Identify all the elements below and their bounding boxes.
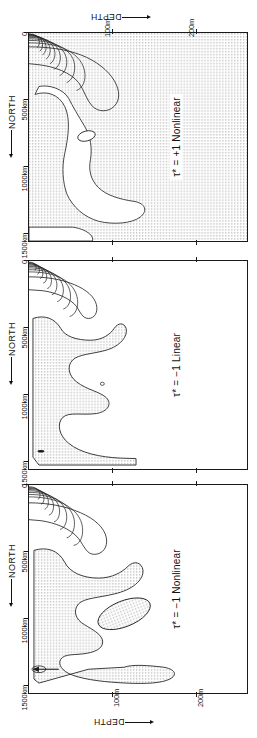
panel-contour-plot — [29, 33, 247, 241]
depth-tick-label-200: 200m — [187, 19, 196, 37]
panel-tau-minus1-linear: 0 500km 1000km 1500km τ* = −1 Linear — [28, 260, 248, 470]
panel-frame — [28, 260, 248, 470]
north-tick-label-1500: 1500km — [20, 685, 29, 710]
depth-tick-200 — [196, 29, 197, 34]
point-marker — [100, 382, 104, 385]
depth-axis-arrow-head-top — [147, 15, 151, 19]
north-tick-label-500: 500km — [20, 99, 29, 121]
depth-axis-arrow-line-top — [122, 17, 148, 18]
north-axis-arrow-head — [9, 381, 13, 385]
depth-tick-100-bottom — [112, 468, 113, 473]
panel-caption-text: τ* = +1 Nonlinear — [171, 97, 182, 177]
north-tick-label-0: 0 — [20, 484, 29, 488]
north-axis-arrow-head — [9, 603, 13, 607]
small-annotation-marker — [38, 450, 45, 453]
panel-caption: τ* = +1 Nonlinear — [170, 94, 183, 180]
depth-tick-200-bottom — [196, 468, 197, 473]
depth-tick-label-100: 100m — [103, 19, 112, 37]
north-axis-arrow-line — [11, 130, 12, 156]
depth-tick-200-bottom — [196, 240, 197, 245]
panel-caption: τ* = −1 Nonlinear — [170, 546, 183, 632]
north-tick-label-1000: 1000km — [20, 394, 29, 419]
panel-caption: τ* = −1 Linear — [170, 330, 183, 400]
panel-tau-plus1-nonlinear: 0 500km 1000km 1500km 100m 200m τ* = +1 … — [28, 32, 248, 242]
north-tick-label-0: 0 — [20, 260, 29, 264]
depth-tick-label-100-bottom: 100m — [112, 689, 121, 707]
panel-frame — [28, 32, 248, 242]
north-tick-label-1500: 1500km — [20, 233, 29, 258]
depth-axis-arrow-line-bottom — [125, 722, 151, 723]
north-tick-label-500: 500km — [20, 551, 29, 573]
north-axis-title: NORTH — [7, 319, 17, 359]
north-tick-label-500: 500km — [20, 327, 29, 349]
panel-tau-minus1-nonlinear: 0 500km 1000km 1500km 100m 200m τ* = −1 … — [28, 484, 248, 694]
north-tick-label-1000: 1000km — [20, 618, 29, 643]
north-axis-title: NORTH — [7, 92, 17, 132]
north-tick-label-1000: 1000km — [20, 166, 29, 191]
contour-figure: DEPTH DEPTH — [0, 0, 257, 738]
depth-axis-arrow-head-bottom — [150, 720, 154, 724]
depth-tick-100 — [112, 29, 113, 34]
depth-tick-label-200-bottom: 200m — [196, 689, 205, 707]
north-axis-title: NORTH — [7, 541, 17, 581]
depth-axis-title-bottom: DEPTH — [94, 717, 125, 727]
panel-contour-plot — [29, 485, 247, 693]
depth-tick-0 — [28, 32, 29, 36]
depth-tick-200 — [196, 481, 197, 486]
panel-caption-text: τ* = −1 Linear — [171, 333, 182, 397]
panel-contour-plot — [29, 261, 247, 469]
depth-tick-100 — [112, 257, 113, 262]
depth-tick-200 — [196, 257, 197, 262]
panel-caption-text: τ* = −1 Nonlinear — [171, 549, 182, 629]
panel-frame — [28, 484, 248, 694]
north-tick-label-1500: 1500km — [20, 461, 29, 486]
north-axis-arrow-line — [11, 579, 12, 605]
depth-tick-100 — [112, 481, 113, 486]
north-axis-arrow-line — [11, 357, 12, 383]
north-axis-arrow-head — [9, 154, 13, 158]
depth-tick-100-bottom — [112, 240, 113, 245]
